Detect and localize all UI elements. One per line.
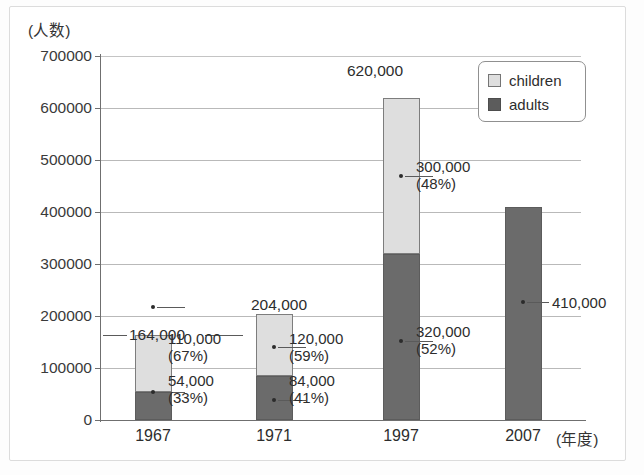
annotation-1997-adults-value: 320,000: [416, 323, 470, 340]
y-tick-label-0: 0: [0, 411, 92, 429]
legend-label-children: children: [509, 72, 562, 89]
bar-2007-adults[interactable]: [505, 207, 542, 420]
annotation-1971-adults: 84,000 (41%): [289, 372, 335, 406]
annotation-1971-children-percent: (59%): [289, 347, 343, 364]
x-tick-label-1971: 1971: [229, 427, 319, 445]
bar-1967-adults[interactable]: [135, 392, 172, 420]
annotation-1971-children: 120,000 (59%): [289, 330, 343, 364]
annotation-1967-children-value: 110,000: [168, 330, 221, 347]
annotation-2007-adults-value: 410,000: [552, 294, 606, 311]
y-tick-label-300000: 300000: [0, 255, 92, 273]
y-tick-label-400000: 400000: [0, 203, 92, 221]
total-label-1971: 204,000: [251, 296, 307, 314]
legend-item-adults[interactable]: adults: [488, 92, 585, 116]
gridline-700000: [101, 56, 581, 57]
annotation-1997-children-percent: (48%): [416, 175, 470, 192]
annotation-dot-1971-children: [272, 345, 276, 349]
legend-swatch-adults-icon: [488, 98, 501, 111]
annotation-dot-2007-adults: [521, 300, 525, 304]
chart-figure: (人数) (年度) 700000 600000 500000 400000 30…: [0, 0, 644, 475]
leader-2007-adults: [527, 302, 549, 303]
annotation-dot-1967-adults: [151, 390, 155, 394]
x-tick-label-1967: 1967: [108, 427, 198, 445]
chart-legend[interactable]: children adults: [478, 61, 586, 122]
y-tick-mark-0: [95, 420, 101, 421]
annotation-dot-1997-children: [399, 174, 403, 178]
annotation-dot-1967-children: [151, 305, 155, 309]
y-tick-label-100000: 100000: [0, 359, 92, 377]
y-tick-label-500000: 500000: [0, 151, 92, 169]
annotation-1971-adults-percent: (41%): [289, 389, 335, 406]
leader-1967-children: [157, 307, 185, 308]
annotation-1997-adults: 320,000 (52%): [416, 323, 470, 357]
x-tick-label-1997: 1997: [356, 427, 446, 445]
x-tick-label-2007: 2007: [478, 427, 568, 445]
annotation-1967-children: 110,000 (67%): [168, 330, 221, 364]
annotation-1967-adults-value: 54,000: [168, 372, 214, 389]
annotation-1967-adults-percent: (33%): [168, 389, 214, 406]
gridline-500000: [101, 160, 581, 161]
x-axis-line: [101, 420, 586, 421]
legend-item-children[interactable]: children: [488, 68, 585, 92]
annotation-1997-children: 300,000 (48%): [416, 158, 470, 192]
annotation-2007-adults: 410,000: [552, 294, 606, 311]
bar-1997-adults[interactable]: [383, 254, 420, 420]
annotation-1997-children-value: 300,000: [416, 158, 470, 175]
y-tick-label-600000: 600000: [0, 99, 92, 117]
annotation-1967-adults: 54,000 (33%): [168, 372, 214, 406]
y-tick-label-200000: 200000: [0, 307, 92, 325]
y-tick-label-700000: 700000: [0, 47, 92, 65]
annotation-1997-adults-percent: (52%): [416, 340, 470, 357]
y-axis-units-label: (人数): [28, 18, 70, 40]
annotation-dot-1971-adults: [272, 398, 276, 402]
annotation-1971-children-value: 120,000: [289, 330, 343, 347]
legend-swatch-children-icon: [488, 74, 501, 87]
annotation-dot-1997-adults: [399, 339, 403, 343]
annotation-1971-adults-value: 84,000: [289, 372, 335, 389]
leader-total-1967-left: [103, 335, 127, 336]
annotation-1967-children-percent: (67%): [168, 347, 221, 364]
total-label-1997: 620,000: [347, 62, 403, 80]
legend-label-adults: adults: [509, 96, 549, 113]
